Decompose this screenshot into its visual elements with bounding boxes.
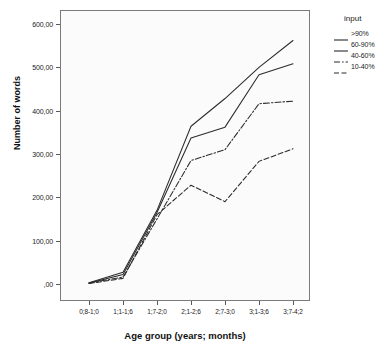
legend-line-swatch	[334, 63, 348, 71]
legend: input >90%60-90%40-60%10-40%	[334, 14, 390, 72]
legend-label: 10-40%	[351, 63, 375, 70]
x-tick-label: 1;1-1;6	[113, 308, 133, 315]
x-tick-mark	[293, 301, 294, 305]
legend-item: 60-90%	[334, 39, 390, 50]
legend-label: 40-60%	[351, 52, 375, 59]
x-tick-mark	[89, 301, 90, 305]
x-tick-mark	[123, 301, 124, 305]
x-tick-mark	[157, 301, 158, 305]
x-tick-label: 3;7-4;2	[283, 308, 303, 315]
legend-item: >90%	[334, 28, 390, 39]
legend-item: 40-60%	[334, 50, 390, 61]
x-tick-label: 1;7-2;0	[147, 308, 167, 315]
x-axis: 0;8-1;01;1-1;61;7-2;02;1-2;62;7-3;03;1-3…	[0, 0, 390, 355]
x-axis-title: Age group (years; months)	[60, 330, 310, 341]
chart-page: ,00100,00200,00300,00400,00500,00600,00 …	[0, 0, 390, 355]
legend-title: input	[344, 14, 390, 23]
legend-item: 10-40%	[334, 61, 390, 72]
x-tick-mark	[225, 301, 226, 305]
legend-label: >90%	[351, 30, 369, 37]
x-tick-label: 0;8-1;0	[79, 308, 99, 315]
legend-line-swatch	[334, 41, 348, 49]
x-tick-mark	[191, 301, 192, 305]
x-tick-label: 3;1-3;6	[249, 308, 269, 315]
legend-label: 60-90%	[351, 41, 375, 48]
legend-line-swatch	[334, 52, 348, 60]
legend-line-swatch	[334, 30, 348, 38]
x-tick-label: 2;1-2;6	[181, 308, 201, 315]
x-tick-mark	[259, 301, 260, 305]
x-tick-label: 2;7-3;0	[215, 308, 235, 315]
legend-entries: >90%60-90%40-60%10-40%	[334, 28, 390, 72]
